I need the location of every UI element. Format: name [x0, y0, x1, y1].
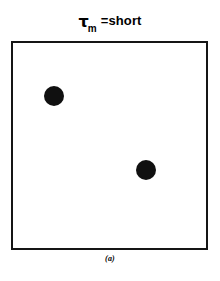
data-point-marker [136, 160, 156, 180]
figure-title: τm=short [0, 12, 220, 36]
title-value-short: =short [101, 13, 142, 28]
plot-frame [11, 41, 208, 250]
figure-panel: τm=short (a) [0, 0, 220, 281]
figure-caption-label: (a) [0, 254, 220, 263]
tau-subscript-m: m [88, 23, 97, 34]
data-point-marker [44, 86, 64, 106]
